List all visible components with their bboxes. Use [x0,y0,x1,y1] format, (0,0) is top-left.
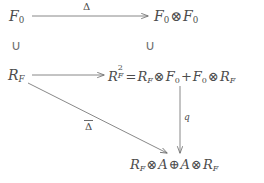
equals-sign: = [125,69,138,84]
node-top-right-right-base: F [183,8,193,24]
node-top-left: F0 [9,9,24,25]
term2-a: F [193,69,202,84]
node-top-right-right-sub: 0 [193,15,199,25]
tensor-operator-icon-2: ⊗ [207,69,220,84]
node-top-left-base: F [9,8,19,24]
term1-b: F [166,69,175,84]
term2-b: R [220,69,230,84]
tensor-operator-icon: ⊗ [169,8,183,24]
plus-sign: + [180,69,193,84]
term2-b-sub: F [230,76,236,85]
bottom-term2-a: A [181,157,190,172]
tensor-operator-icon-1: ⊗ [153,69,166,84]
r2f-scripts: 2F [118,68,125,81]
arrow-diagonal-delta-bar [28,83,167,153]
q-glyph: q [184,112,190,122]
arrow-label-vertical-q: q [184,113,190,122]
commutative-diagram: F0 F0⊗F0 ∪ ∪ RF R2F=RF⊗F0+F0⊗RF RF⊗A⊕A⊗R… [0,0,264,183]
inclusion-right-icon: ∪ [145,38,155,52]
tensor-operator-icon-4: ⊗ [190,157,203,172]
r2f-base: R [108,69,118,84]
arrow-label-diagonal-delta-bar: Δ [85,122,92,132]
arrow-layer [0,0,264,183]
node-mid-left: RF [8,68,25,84]
node-mid-left-sub: F [19,74,25,84]
node-mid-left-base: R [8,67,19,83]
term1-a-sub: F [147,76,153,85]
bottom-term1-a: R [130,157,140,172]
oplus-operator-icon: ⊕ [168,157,181,172]
term1-a: R [137,69,147,84]
node-top-left-sub: 0 [19,15,25,25]
r2f-sub: F [118,72,124,80]
inclusion-left-icon: ∪ [11,38,21,52]
node-top-right: F0⊗F0 [154,9,198,25]
node-bottom: RF⊗A⊕A⊗RF [130,158,218,173]
bottom-term1-b: A [158,157,167,172]
bottom-term2-b: R [203,157,213,172]
node-mid-right: R2F=RF⊗F0+F0⊗RF [108,68,235,85]
arrow-label-top-delta: Δ [83,2,90,12]
node-top-right-left-base: F [154,8,164,24]
bottom-term2-b-sub: F [213,164,219,173]
delta-bar-glyph: Δ [85,122,92,132]
tensor-operator-icon-3: ⊗ [145,157,158,172]
